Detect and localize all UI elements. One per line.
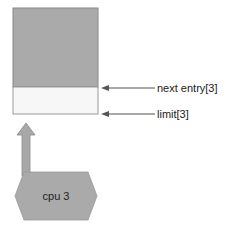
cpu-label: cpu 3	[15, 190, 97, 202]
memory-block	[13, 8, 98, 114]
up-arrow-icon	[17, 123, 35, 176]
limit-label: limit[3]	[157, 108, 189, 120]
memory-free-region	[13, 87, 98, 114]
memory-used-region	[13, 8, 98, 87]
next-entry-pointer-arrow	[101, 85, 155, 91]
limit-pointer-arrow	[101, 111, 155, 117]
next-entry-label: next entry[3]	[157, 82, 218, 94]
